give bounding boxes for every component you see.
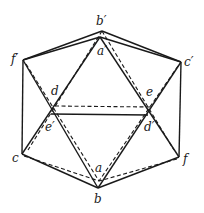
edge-aprime-c — [22, 37, 100, 154]
icosahedron-diagram: b′ a′ f′ c′ d e e′ d′ c f a b — [0, 0, 204, 213]
label-a-prime: a′ — [97, 44, 107, 58]
edge-cprime-b — [98, 62, 181, 188]
edge-cprime-f — [179, 62, 181, 157]
label-a: a — [95, 161, 102, 175]
vertex-labels: b′ a′ f′ c′ d e e′ d′ c f a b — [10, 14, 194, 206]
edge-fprime-b — [23, 60, 98, 188]
label-e: e — [146, 85, 153, 99]
edge-fprime-c — [22, 60, 23, 154]
edge-aprime-cprime — [100, 37, 181, 62]
label-c: c — [12, 151, 19, 165]
edge-fprime-a — [26, 64, 99, 181]
label-b-prime: b′ — [96, 14, 107, 28]
label-b: b — [94, 192, 102, 206]
edge-fprime-bprime — [23, 31, 102, 60]
edge-cprime-a — [99, 66, 178, 181]
edge-d-e — [55, 106, 151, 107]
edge-fprime-aprime — [23, 37, 100, 60]
label-f: f — [182, 152, 190, 166]
label-e-prime: e′ — [45, 120, 55, 134]
label-d-prime: d′ — [144, 120, 155, 134]
label-d: d — [51, 84, 59, 98]
label-f-prime: f′ — [10, 52, 18, 66]
edge-eprime-dprime — [51, 114, 148, 115]
label-c-prime: c′ — [184, 55, 194, 69]
